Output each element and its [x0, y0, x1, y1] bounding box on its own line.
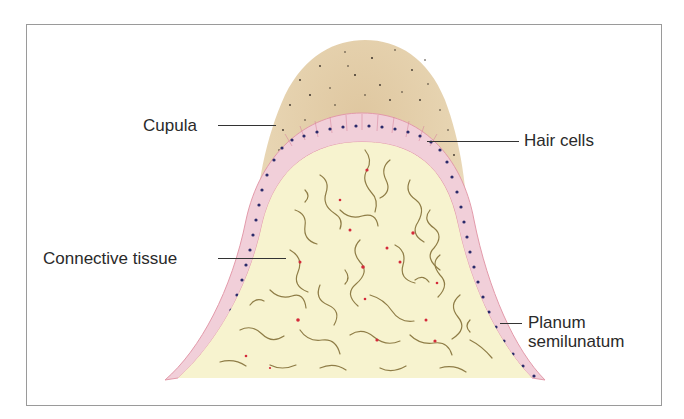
label-connective-tissue: Connective tissue: [43, 249, 177, 268]
crista-ampullaris-diagram: [0, 0, 684, 419]
label-hair-cells: Hair cells: [524, 131, 594, 150]
label-cupula: Cupula: [143, 116, 197, 135]
leader-line-hair-cells: [427, 141, 519, 142]
label-planum-line1: Planum: [528, 313, 586, 332]
leader-line-planum: [500, 323, 522, 324]
leader-line-connective-tissue: [218, 258, 286, 259]
leader-line-cupula: [218, 125, 276, 126]
label-planum-line2: semilunatum: [528, 332, 624, 351]
